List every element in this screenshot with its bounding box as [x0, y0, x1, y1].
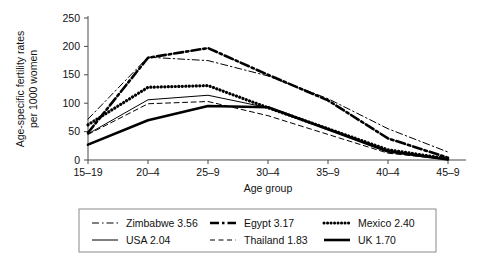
y-tick-label: 250 [62, 12, 80, 24]
y-tick-label: 100 [62, 97, 80, 109]
series-lines [88, 48, 448, 159]
y-tick-label: 0 [74, 154, 80, 166]
y-axis: 050100150200250 [62, 12, 88, 166]
legend-label-zimbabwe: Zimbabwe 3.56 [126, 217, 198, 229]
series-line-zimbabwe [88, 57, 448, 152]
legend-label-uk: UK 1.70 [358, 234, 396, 246]
x-tick-label: 20–4 [136, 166, 160, 178]
series-line-usa [88, 95, 448, 159]
x-tick-label: 30–4 [256, 166, 280, 178]
y-axis-title-line2: per 1000 women [27, 50, 39, 128]
x-tick-label: 25–9 [196, 166, 220, 178]
chart-legend: Zimbabwe 3.56Egypt 3.17Mexico 2.40USA 2.… [79, 209, 436, 252]
y-tick-label: 50 [68, 125, 80, 137]
x-tick-label: 35–9 [316, 166, 340, 178]
y-tick-label: 150 [62, 68, 80, 80]
legend-label-thailand: Thailand 1.83 [244, 234, 308, 246]
legend-label-egypt: Egypt 3.17 [244, 217, 294, 229]
x-tick-label: 15–19 [73, 166, 102, 178]
x-axis: 15–1920–425–930–435–940–445–9 [73, 160, 466, 178]
chart-canvas: 050100150200250 15–1920–425–930–435–940–… [0, 0, 484, 260]
legend-label-mexico: Mexico 2.40 [358, 217, 415, 229]
x-tick-label: 40–4 [376, 166, 400, 178]
y-axis-title-line1: Age-specific fertility rates [14, 31, 26, 148]
x-tick-label: 45–9 [436, 166, 460, 178]
legend-label-usa: USA 2.04 [126, 234, 171, 246]
y-tick-label: 200 [62, 40, 80, 52]
series-line-uk [88, 106, 448, 159]
x-axis-title: Age group [244, 182, 293, 194]
fertility-rate-chart-figure: 050100150200250 15–1920–425–930–435–940–… [0, 0, 484, 260]
